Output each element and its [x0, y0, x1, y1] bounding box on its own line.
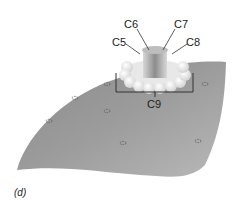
- mac-diagram: C5 C6 C7 C8 C9 (d): [0, 0, 242, 201]
- label-c5: C5: [112, 36, 126, 48]
- label-c7: C7: [174, 18, 188, 30]
- label-c6: C6: [124, 18, 138, 30]
- panel-label: (d): [14, 187, 26, 198]
- mac-pore: [119, 46, 191, 94]
- label-c9: C9: [147, 98, 161, 110]
- label-c8: C8: [186, 36, 200, 48]
